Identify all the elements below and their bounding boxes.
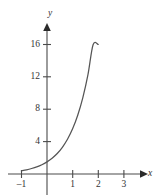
x-tick-label-1: 1 <box>63 180 83 190</box>
y-tick-label-8: 8 <box>20 104 40 114</box>
x-axis-arrow-icon <box>140 170 148 178</box>
plot-canvas <box>0 0 156 195</box>
x-tick-label-2: 2 <box>88 180 108 190</box>
exponential-graph-figure: y x 16 12 8 4 –1 1 2 3 <box>0 0 156 195</box>
y-axis-label: y <box>48 9 52 19</box>
y-tick-label-12: 12 <box>20 72 40 82</box>
y-tick-label-4: 4 <box>20 137 40 147</box>
y-tick-label-16: 16 <box>20 40 40 50</box>
x-axis-label: x <box>148 169 152 179</box>
y-axis-arrow-icon <box>43 23 51 31</box>
x-tick-label-3: 3 <box>114 180 134 190</box>
x-tick-label-neg1: –1 <box>12 180 32 190</box>
